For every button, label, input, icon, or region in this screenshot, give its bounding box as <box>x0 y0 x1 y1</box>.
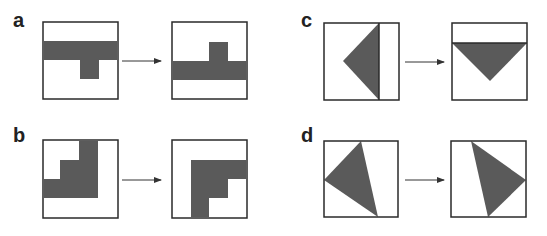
panel-a-before <box>43 22 118 99</box>
panel-d-after <box>451 141 526 217</box>
panel-d-before <box>324 141 398 217</box>
panel-c-after <box>452 23 527 100</box>
transformation-diagram <box>0 0 547 236</box>
panel-a <box>43 22 247 99</box>
panel-d <box>324 141 526 217</box>
panel-c-before <box>324 23 399 100</box>
panel-b <box>43 140 247 218</box>
panel-b-before <box>43 140 118 218</box>
panel-a-after <box>172 22 247 99</box>
panel-b-after <box>172 140 247 218</box>
panel-c <box>324 23 527 100</box>
